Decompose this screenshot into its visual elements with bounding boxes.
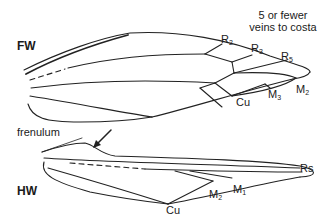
arrow-icon bbox=[93, 130, 111, 148]
vein-label-cu-forewing: Cu bbox=[236, 97, 250, 108]
forewing-outline bbox=[24, 32, 310, 122]
annotation-note: 5 or fewer veins to costa bbox=[240, 9, 326, 33]
frenulum-label: frenulum bbox=[17, 127, 60, 138]
vein-label-cu-hindwing: Cu bbox=[166, 205, 180, 216]
annotation-line-1: 5 or fewer bbox=[240, 9, 326, 21]
hindwing-outline bbox=[42, 143, 314, 204]
vein-label-m2-hindwing: M2 bbox=[209, 189, 222, 200]
vein-label-m1: M1 bbox=[233, 184, 246, 195]
vein-label-rs: Rs bbox=[300, 163, 313, 174]
forewing-label: FW bbox=[17, 41, 36, 52]
vein-label-r5: R5 bbox=[281, 51, 293, 62]
annotation-line-2: veins to costa bbox=[240, 21, 326, 33]
vein-label-m2: M2 bbox=[296, 84, 309, 95]
vein-label-r2: R2 bbox=[221, 34, 233, 45]
hindwing-label: HW bbox=[17, 186, 37, 197]
hindwing-veins bbox=[42, 138, 302, 204]
vein-label-r3: R3 bbox=[251, 43, 263, 54]
vein-label-m3: M3 bbox=[268, 89, 281, 100]
